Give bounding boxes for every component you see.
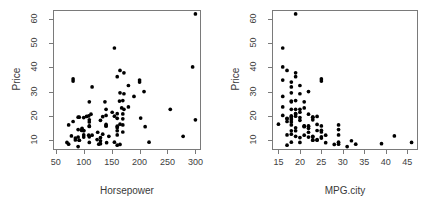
data-point [307,126,311,130]
data-point [99,136,103,140]
data-point [87,100,91,104]
x-tick [112,150,113,154]
data-point [289,85,293,89]
data-point [122,107,126,111]
data-point [320,128,324,132]
y-tick-label: 40 [249,56,258,78]
data-point [311,138,315,142]
x-tick [195,150,196,154]
data-point [337,142,341,146]
data-point [294,129,298,133]
data-point [289,91,293,95]
data-point [289,80,293,84]
data-point [143,125,147,129]
data-point [294,75,298,79]
data-point [281,95,285,99]
data-point [118,91,122,95]
data-point [289,114,293,118]
data-point [332,143,336,147]
data-point [324,141,328,145]
data-point [121,130,125,134]
y-tick [49,116,53,117]
data-point [82,133,86,137]
data-point [298,136,302,140]
data-point [289,107,293,111]
x-tick [407,150,408,154]
y-tick [49,43,53,44]
x-tick [300,150,301,154]
data-point [194,118,198,122]
y-tick [49,67,53,68]
data-point [132,95,136,99]
x-tick-label: 35 [359,158,369,167]
data-point [311,115,315,119]
data-point [82,129,86,133]
y-tick [49,19,53,20]
y-tick [268,67,272,68]
data-point [294,99,298,103]
data-point [147,140,151,144]
data-point [320,124,324,128]
data-point [104,107,108,111]
x-tick-label: 20 [295,158,305,167]
data-point [281,65,285,69]
data-point [285,133,289,137]
data-point [320,136,324,140]
y-tick-label: 40 [30,56,39,78]
data-point [298,92,302,96]
data-point [281,105,285,109]
data-point [315,123,319,127]
data-point [73,136,77,140]
data-points-left [53,10,201,150]
x-tick [386,150,387,154]
y-tick [268,19,272,20]
x-tick-label: 250 [160,158,175,167]
data-point [380,142,384,146]
y-axis-title-left: Price [12,59,22,99]
data-point [285,69,289,73]
data-point [281,46,285,50]
data-point [307,135,311,139]
data-point [90,133,94,137]
data-point [138,78,142,82]
data-point [194,12,198,16]
scatter-svg-left [53,10,201,150]
data-point [191,65,195,69]
y-tick-label: 30 [30,80,39,102]
data-point [294,12,298,16]
data-point [122,71,126,75]
data-point [121,99,125,103]
y-tick [268,140,272,141]
data-point [99,118,103,122]
data-point [87,124,91,128]
y-tick-label: 60 [30,7,39,29]
data-point [294,135,298,139]
data-point [302,100,306,104]
data-point [115,124,119,128]
x-tick-label: 40 [381,158,391,167]
scatter-svg-right [272,10,418,150]
data-point [110,110,114,114]
data-point [95,138,99,142]
data-point [315,129,319,133]
x-tick [321,150,322,154]
data-point [324,133,328,137]
data-point [294,112,298,116]
data-point [115,133,119,137]
data-point [104,114,108,118]
data-point [285,120,289,124]
data-point [315,115,319,119]
data-point [122,92,126,96]
data-point [104,123,108,127]
data-point [121,117,125,121]
data-point [118,69,122,73]
y-tick [268,92,272,93]
data-point [337,128,341,132]
x-tick-label: 30 [338,158,348,167]
data-point [87,133,91,137]
data-point [311,135,315,139]
data-point [307,90,311,94]
x-tick [140,150,141,154]
data-point [337,123,341,127]
data-point [70,134,74,138]
